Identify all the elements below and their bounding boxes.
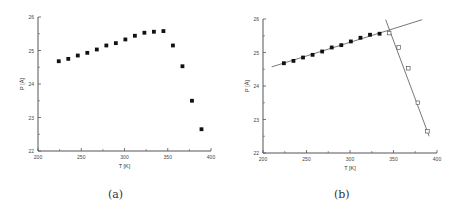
- data-point: [104, 44, 108, 48]
- x-tick-label: 400: [433, 156, 442, 162]
- data-point: [282, 61, 286, 65]
- data-point: [66, 57, 70, 61]
- data-point: [330, 46, 334, 50]
- x-tick-label: 350: [164, 154, 173, 160]
- x-tick-label: 400: [207, 154, 216, 160]
- y-tick-label: 24: [253, 83, 259, 89]
- data-point: [114, 41, 118, 45]
- y-axis-label: P [Å]: [244, 80, 250, 92]
- chart-b: 2223242526200250300350400T [K]P [Å]: [229, 0, 459, 219]
- data-point: [311, 53, 315, 57]
- data-point-open: [416, 101, 420, 105]
- x-axis-label: T [K]: [119, 163, 131, 169]
- data-point: [190, 99, 194, 103]
- x-tick-label: 300: [346, 156, 355, 162]
- data-point: [339, 43, 343, 47]
- data-point: [368, 33, 372, 37]
- data-point: [162, 29, 166, 33]
- panel-a: 2223242526200250300350400T [K]P [Å] (a): [0, 0, 229, 219]
- data-point: [349, 40, 353, 44]
- data-point: [123, 38, 127, 42]
- y-axis-label: P [Å]: [19, 78, 25, 90]
- data-point: [301, 56, 305, 60]
- data-point: [76, 54, 80, 58]
- x-tick-label: 200: [34, 154, 43, 160]
- y-tick-label: 24: [28, 81, 34, 87]
- data-point: [85, 51, 89, 55]
- y-tick-label: 25: [28, 48, 34, 54]
- chart-a: 2223242526200250300350400T [K]P [Å]: [0, 0, 229, 219]
- caption-b: (b): [334, 188, 350, 201]
- fit-line: [386, 20, 430, 137]
- data-point: [152, 30, 156, 34]
- y-tick-label: 26: [28, 14, 34, 20]
- x-tick-label: 200: [259, 156, 268, 162]
- x-tick-label: 300: [120, 154, 129, 160]
- x-axis-label: T [K]: [344, 165, 356, 171]
- y-tick-label: 23: [28, 115, 34, 121]
- data-point: [378, 32, 382, 36]
- x-tick-label: 250: [77, 154, 86, 160]
- y-tick-label: 26: [253, 16, 259, 22]
- x-tick-label: 250: [302, 156, 311, 162]
- data-point: [320, 50, 324, 54]
- data-point: [181, 64, 185, 68]
- panel-b: 2223242526200250300350400T [K]P [Å] (b): [229, 0, 458, 219]
- data-point: [133, 34, 137, 38]
- x-tick-label: 350: [389, 156, 398, 162]
- data-point-open: [406, 66, 410, 70]
- data-point: [171, 44, 175, 48]
- data-point-open: [387, 31, 391, 35]
- data-point: [292, 59, 296, 63]
- y-tick-label: 25: [253, 50, 259, 56]
- data-point: [359, 36, 363, 40]
- data-point-open: [426, 129, 430, 133]
- data-point: [200, 127, 204, 131]
- data-point: [57, 59, 61, 63]
- caption-a: (a): [108, 188, 123, 201]
- data-point: [95, 48, 99, 52]
- data-point: [142, 31, 146, 35]
- y-tick-label: 23: [253, 117, 259, 123]
- data-point-open: [397, 46, 401, 50]
